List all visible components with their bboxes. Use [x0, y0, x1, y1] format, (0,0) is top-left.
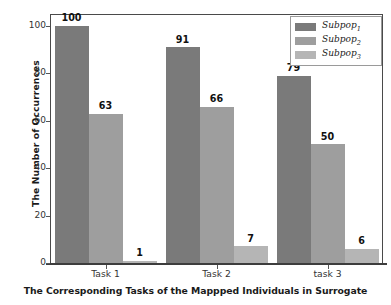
bar-value-label: 63 [89, 101, 123, 111]
x-axis-title: The Corresponding Tasks of the Mappped I… [0, 285, 391, 296]
legend-swatch-subpop2 [295, 37, 316, 45]
y-axis-tick-labels: 020406080100 [18, 0, 46, 305]
y-tick-mark [46, 26, 50, 27]
legend-item-subpop2[interactable]: Subpop2 [295, 34, 377, 47]
bar-task-1-series2[interactable] [89, 114, 123, 263]
y-tick-mark [46, 168, 50, 169]
legend-label-subpop3: Subpop3 [322, 48, 361, 61]
legend: Subpop1 Subpop2 Subpop3 [290, 16, 382, 66]
x-tick-mark [106, 265, 107, 269]
bar-group: 91667 [166, 14, 268, 263]
legend-item-subpop1[interactable]: Subpop1 [295, 20, 377, 33]
bar-task-2-series2[interactable] [200, 107, 234, 264]
bar-task-2-series1[interactable] [166, 47, 200, 263]
bar-task-3-series1[interactable] [277, 76, 311, 263]
legend-swatch-subpop3 [295, 51, 316, 59]
x-tick-mark [217, 265, 218, 269]
legend-item-subpop3[interactable]: Subpop3 [295, 48, 377, 61]
bar-value-label: 91 [166, 35, 200, 45]
y-tick-mark [46, 121, 50, 122]
y-tick-mark [46, 216, 50, 217]
bar-value-label: 1 [123, 248, 157, 258]
bar-task-1-series1[interactable] [55, 26, 89, 263]
bar-task-3-series3[interactable] [345, 249, 379, 263]
y-tick-mark [46, 263, 50, 264]
x-tick-label: Task 2 [177, 268, 257, 279]
bar-task-2-series3[interactable] [234, 246, 268, 263]
legend-label-subpop2: Subpop2 [322, 34, 361, 47]
y-tick-label: 0 [22, 258, 46, 267]
y-tick-label: 20 [22, 211, 46, 220]
y-tick-label: 100 [22, 21, 46, 30]
y-tick-label: 40 [22, 163, 46, 172]
legend-swatch-subpop1 [295, 23, 316, 31]
bar-task-1-series3[interactable] [123, 261, 157, 263]
x-tick-label: Task 1 [66, 268, 146, 279]
y-tick-mark [46, 73, 50, 74]
bar-chart-figure: The Number of Occurrences 020406080100 1… [0, 0, 391, 305]
bar-value-label: 7 [234, 234, 268, 244]
bar-group: 100631 [55, 14, 157, 263]
bar-value-label: 100 [55, 13, 89, 23]
x-tick-mark [328, 265, 329, 269]
bar-value-label: 66 [200, 94, 234, 104]
y-tick-label: 80 [22, 68, 46, 77]
bar-value-label: 50 [311, 132, 345, 142]
legend-label-subpop1: Subpop1 [322, 20, 361, 33]
bar-task-3-series2[interactable] [311, 144, 345, 263]
bar-value-label: 6 [345, 236, 379, 246]
x-tick-label: task 3 [288, 268, 368, 279]
y-tick-label: 60 [22, 116, 46, 125]
